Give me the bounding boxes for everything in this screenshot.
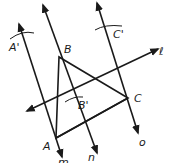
label-l: ℓ (158, 45, 164, 58)
label-m: m (58, 156, 69, 163)
geometry-diagram: A' B C' ℓ B' C A o n m (0, 0, 171, 163)
label-c: C (134, 92, 142, 105)
label-a-prime: A' (8, 41, 20, 54)
label-b: B (64, 43, 72, 56)
label-n: n (88, 151, 95, 163)
label-b-prime: B' (78, 99, 89, 112)
label-o: o (139, 136, 146, 149)
segment-a-c-base (56, 98, 128, 138)
label-c-prime: C' (113, 28, 124, 41)
label-a: A (42, 140, 51, 153)
